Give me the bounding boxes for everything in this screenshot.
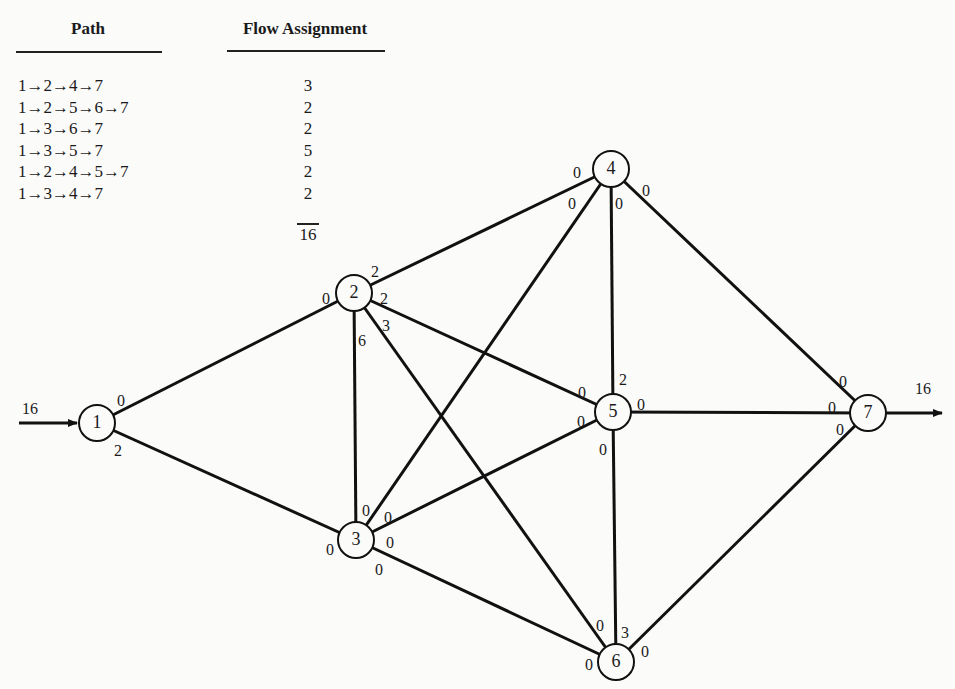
node-3: 3 <box>338 522 374 558</box>
edge-flow-label: 2 <box>619 371 627 388</box>
edge-flow-label: 3 <box>621 624 629 641</box>
edge-flow-label: 2 <box>380 290 388 307</box>
node-6: 6 <box>598 644 634 680</box>
source-flow-label: 16 <box>22 400 38 417</box>
edge-1-3 <box>97 423 356 540</box>
source-sink-arrows: 16 16 <box>19 380 942 423</box>
node-5: 5 <box>595 394 631 430</box>
edge-4-5 <box>611 169 613 412</box>
node-label: 7 <box>864 402 873 422</box>
edge-flow-label: 0 <box>362 502 370 519</box>
edge-flow-label: 0 <box>642 182 650 199</box>
edge-flow-label: 0 <box>386 534 394 551</box>
edge-3-4 <box>356 169 611 540</box>
edge-flow-label: 6 <box>358 332 366 349</box>
node-label: 5 <box>609 401 618 421</box>
edge-flow-label: 0 <box>615 195 623 212</box>
edge-6-7 <box>616 413 868 662</box>
node-1: 1 <box>79 405 115 441</box>
edge-flow-label: 2 <box>371 263 379 280</box>
edge-flow-label: 0 <box>117 392 125 409</box>
edge-3-5 <box>356 412 613 540</box>
edge-flow-label: 0 <box>828 399 836 416</box>
edge-flow-label: 0 <box>599 441 607 458</box>
edge-flow-label: 0 <box>578 384 586 401</box>
edge-flow-label: 0 <box>577 413 585 430</box>
node-label: 4 <box>607 158 616 178</box>
edge-flow-label: 0 <box>641 643 649 660</box>
edge-flow-label: 3 <box>382 317 390 334</box>
edge-flow-label: 0 <box>322 290 330 307</box>
edge-flow-label: 0 <box>384 509 392 526</box>
node-label: 6 <box>612 651 621 671</box>
edge-3-6 <box>356 540 616 662</box>
node-2: 2 <box>336 275 372 311</box>
edge-flow-label: 0 <box>596 617 604 634</box>
edge-labels: 0202236000000000200000300000 <box>114 164 847 673</box>
edge-flow-label: 2 <box>114 442 122 459</box>
edge-2-6 <box>354 293 616 662</box>
edge-flow-label: 0 <box>326 541 334 558</box>
node-label: 2 <box>350 282 359 302</box>
sink-flow-label: 16 <box>915 380 931 397</box>
edge-4-7 <box>611 169 868 413</box>
edge-2-3 <box>354 293 356 540</box>
edge-flow-label: 0 <box>839 373 847 390</box>
edge-flow-label: 0 <box>375 561 383 578</box>
node-label: 1 <box>93 412 102 432</box>
node-7: 7 <box>850 395 886 431</box>
node-label: 3 <box>352 529 361 549</box>
edge-flow-label: 0 <box>573 164 581 181</box>
edge-5-6 <box>613 412 616 662</box>
network-diagram: 16 16 0202236000000000200000300000 12345… <box>0 0 955 689</box>
node-4: 4 <box>593 151 629 187</box>
edge-flow-label: 0 <box>568 195 576 212</box>
edge-1-2 <box>97 293 354 423</box>
edges-layer <box>97 169 868 662</box>
edge-flow-label: 0 <box>836 421 844 438</box>
edge-flow-label: 0 <box>585 656 593 673</box>
edge-flow-label: 0 <box>637 396 645 413</box>
edge-2-4 <box>354 169 611 293</box>
